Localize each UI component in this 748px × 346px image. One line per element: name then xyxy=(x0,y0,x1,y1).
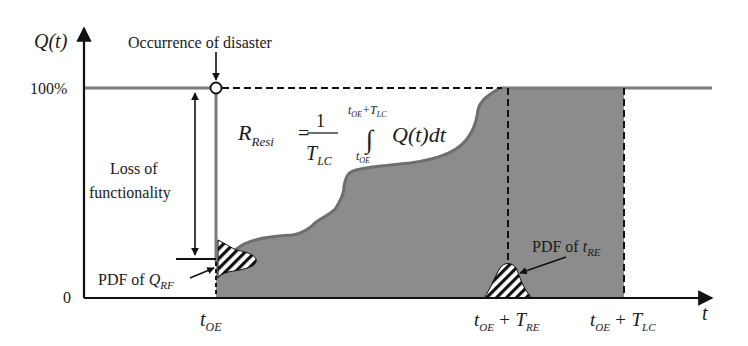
pdf-q-prefix: PDF of xyxy=(98,271,149,288)
formula-r: R xyxy=(237,120,252,145)
x-tick-toe-tlc: tOE+ TLC xyxy=(590,309,656,333)
x-tick-tre-plus: + T xyxy=(498,309,528,330)
pdf-t-prefix: PDF of xyxy=(532,238,583,255)
x-tick-tlc-sub: OE xyxy=(595,321,610,333)
y-axis-label: Q(t) xyxy=(34,30,68,53)
formula-lhs: RResi xyxy=(237,120,274,149)
x-tick-tre-sub: OE xyxy=(479,321,494,333)
upper-limit-plus: +T xyxy=(362,103,378,117)
resilience-formula: RResi = 1 TLC tOE+TLC ∫ tOE Q(t)dt xyxy=(237,103,447,168)
formula-numerator: 1 xyxy=(316,111,325,131)
y-tick-100: 100% xyxy=(30,80,67,97)
x-axis-label: t xyxy=(702,302,708,324)
loss-label-line2: functionality xyxy=(89,184,171,202)
x-tick-toe: tOE xyxy=(200,308,222,334)
upper-limit-sub: OE xyxy=(351,110,362,119)
upper-limit-plus-sub: LC xyxy=(376,110,387,119)
pdf-q-symbol: Q xyxy=(149,271,161,288)
lower-limit-sub: OE xyxy=(359,156,370,165)
formula-upper-limit: tOE+TLC xyxy=(348,103,387,119)
x-tick-toe-sub: OE xyxy=(206,320,223,334)
y-tick-0: 0 xyxy=(63,289,71,306)
x-tick-toe-tre: tOE+ TRE xyxy=(474,309,540,333)
x-tick-tlc-suffix-sub: LC xyxy=(641,321,656,333)
recovery-area-fill xyxy=(216,88,624,298)
disaster-label: Occurrence of disaster xyxy=(128,34,273,51)
disaster-point-marker xyxy=(211,83,222,94)
loss-label-line1: Loss of xyxy=(110,160,158,177)
x-tick-tre-suffix-sub: RE xyxy=(525,321,540,333)
formula-denominator-sub: LC xyxy=(316,154,333,168)
resilience-diagram: Q(t) 100% 0 Occurrence of disaster Loss … xyxy=(0,0,748,346)
pdf-q-label: PDF of QRF xyxy=(98,271,174,291)
x-tick-tlc-plus: + T xyxy=(614,309,644,330)
pdf-t-subscript: RE xyxy=(586,246,601,258)
formula-integral-sign: ∫ xyxy=(364,125,375,155)
formula-integrand: Q(t)dt xyxy=(392,122,447,147)
formula-r-sub: Resi xyxy=(250,134,274,149)
formula-denominator: TLC xyxy=(306,142,333,168)
pdf-q-subscript: RF xyxy=(159,279,174,291)
pdf-q-pointer-arrow xyxy=(190,268,214,278)
